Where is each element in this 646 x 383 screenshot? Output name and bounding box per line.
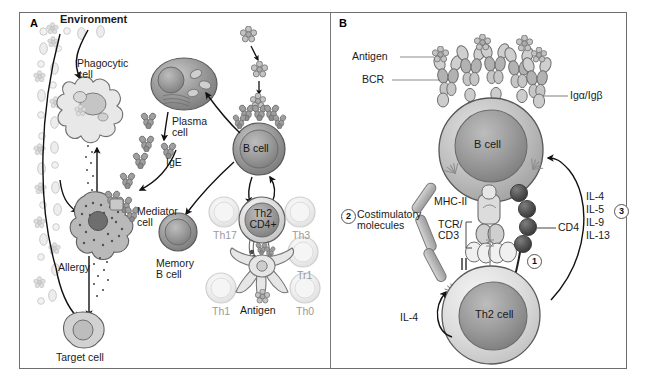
tcr-cd3-complex xyxy=(466,224,517,272)
antigen-bcr-mid xyxy=(474,34,490,50)
panel-b-b-cell-label: B cell xyxy=(474,139,501,151)
antigen-bcr-far-right xyxy=(531,47,546,62)
th2-cd4-label-line2: CD4+ xyxy=(244,219,282,231)
mediator-cell-label-line2: cell xyxy=(137,217,153,229)
plasma-cell xyxy=(151,58,217,110)
antigen-descend-arrow-1 xyxy=(251,46,258,60)
panel-a-letter: A xyxy=(30,17,38,29)
panel-a-antigen-label: Antigen xyxy=(240,305,276,317)
tr1-label: Tr1 xyxy=(297,270,312,282)
bcell-to-plasma-arrow xyxy=(206,93,240,133)
panel-b-th2-cell-label: Th2 cell xyxy=(475,309,514,321)
th1-label: Th1 xyxy=(212,306,230,318)
environment-label: Environment xyxy=(60,14,127,26)
plasma-cell-label-line2: cell xyxy=(172,127,188,139)
allergy-degranulation-dots xyxy=(93,257,109,297)
antigen-bcr-right xyxy=(516,35,532,51)
th0-label: Th0 xyxy=(296,306,314,318)
phagocytic-cell xyxy=(57,77,123,143)
th3-cell xyxy=(285,197,315,227)
th17-label: Th17 xyxy=(213,230,237,242)
il4-autocrine-label: IL-4 xyxy=(400,312,418,324)
figure-root: A B Environment Phagocytic cell Plasma c… xyxy=(0,0,646,383)
bcr-complex-group xyxy=(432,34,553,98)
zeta-chains xyxy=(462,258,466,270)
th17-cell xyxy=(209,197,239,227)
plasma-to-ige-arrow xyxy=(164,112,168,140)
environment-arrow-to-target xyxy=(56,268,78,318)
tcr-cd3-label-line2: CD3 xyxy=(438,230,459,242)
memory-b-cell-label-line2: B cell xyxy=(156,269,182,281)
phagocytic-cell-label-line2: cell xyxy=(77,69,93,81)
signal-marker-1: 1 xyxy=(527,254,542,269)
mhc-ii-label: MHC-II xyxy=(434,196,467,208)
antigen-top xyxy=(240,26,256,42)
ige-antibody-cluster xyxy=(119,112,177,189)
cytokine-il13: IL-13 xyxy=(586,230,610,242)
signal-marker-2: 2 xyxy=(341,209,356,224)
allergy-label: Allergy xyxy=(58,262,90,274)
cd4-label: CD4 xyxy=(558,222,579,234)
costimulatory-label-line2: molecules xyxy=(357,220,404,232)
panel-b-antigen-label: Antigen xyxy=(352,51,388,63)
cytokine-il9: IL-9 xyxy=(586,217,604,229)
cytokine-il4: IL-4 xyxy=(586,191,604,203)
th3-label: Th3 xyxy=(292,230,310,242)
phagocyte-mediator-dots xyxy=(85,145,94,191)
signal-marker-3: 3 xyxy=(614,204,629,219)
target-cell xyxy=(64,312,105,348)
antigen-bcr-left xyxy=(432,46,448,62)
panel-b-letter: B xyxy=(339,17,347,29)
ig-alpha-beta-label: Igα/Igβ xyxy=(570,90,603,102)
cytokine-il5: IL-5 xyxy=(586,204,604,216)
panel-a-b-cell-label: B cell xyxy=(243,143,269,155)
bcr-label: BCR xyxy=(362,74,384,86)
th1-cell xyxy=(206,273,236,303)
memory-b-cell xyxy=(159,213,197,251)
ige-label: IgE xyxy=(166,157,182,169)
target-cell-label: Target cell xyxy=(56,352,104,364)
antigen-mid xyxy=(251,61,267,77)
